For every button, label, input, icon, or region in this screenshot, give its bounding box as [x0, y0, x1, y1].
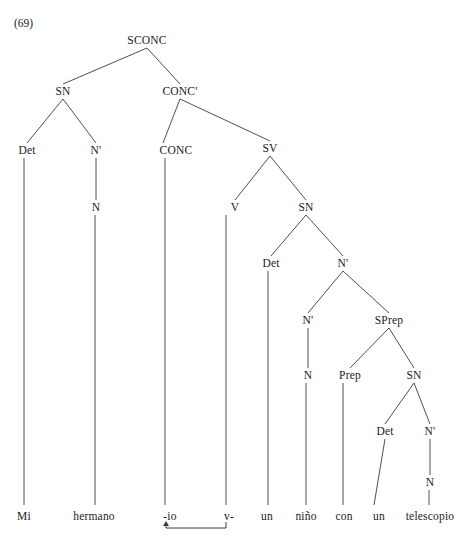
tree-t-un1: un	[261, 510, 273, 522]
tree-t-mi: Mi	[17, 510, 31, 522]
tree-t-hermano: hermano	[73, 510, 115, 522]
tree-node-nbar1: N'	[91, 144, 102, 156]
tree-node-sprep: SPrep	[375, 314, 403, 326]
tree-t-nino: niño	[295, 510, 316, 522]
tree-t-io: -io	[163, 510, 176, 522]
tree-node-det3: Det	[376, 425, 393, 437]
tree-t-con: con	[335, 510, 352, 522]
tree-node-det1: Det	[18, 144, 35, 156]
tree-node-n2: N	[304, 369, 313, 381]
tree-node-sv: SV	[262, 142, 277, 154]
tree-node-nbar4: N'	[425, 425, 436, 437]
tree-node-sn2: SN	[298, 201, 313, 213]
tree-node-sconc: SCONC	[127, 34, 166, 46]
tree-t-v: v-	[224, 510, 234, 522]
tree-node-det2: Det	[262, 257, 279, 269]
tree-node-conc: CONC	[160, 144, 193, 156]
tree-node-sn1: SN	[55, 85, 70, 97]
tree-t-telescopio: telescopio	[406, 510, 455, 522]
tree-node-layer: SCONCSNCONC'DetN'CONCSVNVSNDetN'N'SPrepN…	[0, 0, 465, 544]
tree-node-n1: N	[92, 201, 101, 213]
tree-node-conc-bar: CONC'	[162, 85, 197, 97]
tree-node-nbar3: N'	[303, 314, 314, 326]
tree-node-prep: Prep	[339, 369, 361, 381]
tree-node-n3: N	[426, 476, 435, 488]
tree-t-un2: un	[373, 510, 385, 522]
tree-node-sn3: SN	[406, 369, 421, 381]
tree-node-nbar2: N'	[338, 257, 349, 269]
tree-node-v: V	[231, 201, 240, 213]
